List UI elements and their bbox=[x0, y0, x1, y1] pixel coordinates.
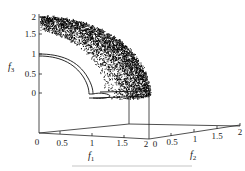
x-tick-1: 1 bbox=[90, 138, 95, 148]
y-tick-1: 1 bbox=[193, 134, 198, 144]
z-tick-1: 1 bbox=[32, 49, 37, 59]
y-tick-2: 2 bbox=[238, 127, 243, 137]
scatter-points bbox=[40, 16, 151, 100]
z-tick-2: 2 bbox=[32, 12, 37, 22]
z-ticks bbox=[39, 17, 42, 93]
z-tick-0: 0 bbox=[32, 88, 37, 98]
z-tick-0-5: 0.5 bbox=[25, 69, 37, 79]
z-axis-label: f3 bbox=[8, 61, 15, 74]
back-floor-line-1 bbox=[39, 124, 129, 133]
y-tick-0: 0 bbox=[153, 139, 158, 149]
y-tick-0-5: 0.5 bbox=[166, 137, 178, 147]
x-tick-0: 0 bbox=[35, 137, 40, 147]
y-tick-1-5: 1.5 bbox=[211, 131, 223, 141]
x-tick-0-5: 0.5 bbox=[56, 138, 68, 148]
back-floor-line-2 bbox=[129, 124, 240, 126]
figure-caption-illegible bbox=[0, 160, 245, 171]
3d-scatter-chart: 2 1.5 1 0.5 0 0 0.5 1 1.5 2 0 0.5 1 1.5 … bbox=[0, 0, 245, 171]
x-tick-2: 2 bbox=[144, 139, 149, 149]
x-tick-1-5: 1.5 bbox=[116, 138, 128, 148]
z-tick-1-5: 1.5 bbox=[25, 29, 37, 39]
